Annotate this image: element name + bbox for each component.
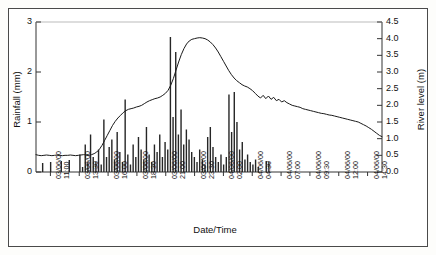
x-tick-6: 04/06/0002:00 [228, 151, 244, 179]
x-tick-time: 07:00 [294, 151, 302, 179]
x-tick-time: 13:30 [92, 151, 100, 179]
x-tick-time: 14:30 [381, 151, 389, 179]
x-tick-time: 18:30 [150, 151, 158, 179]
x-tick-time: 02:00 [236, 151, 244, 179]
x-tick-10: 04/06/0012:00 [344, 151, 360, 179]
y-axis-right-title: River level (m) [415, 50, 426, 150]
y-tick-right-7: 3.5 [386, 49, 412, 59]
x-tick-time: 11:00 [63, 151, 71, 179]
chart-canvas [0, 0, 436, 255]
y-tick-left-0: 0 [10, 166, 32, 176]
y-tick-right-5: 2.5 [386, 83, 412, 93]
y-tick-right-4: 2.0 [386, 99, 412, 109]
x-axis-title: Date/Time [130, 224, 300, 235]
y-axis-left-title: Rainfall (mm) [11, 50, 22, 150]
x-tick-8: 04/06/0007:00 [286, 151, 302, 179]
x-tick-1: 03/06/0013:30 [84, 151, 100, 179]
x-tick-3: 03/06/0018:30 [142, 151, 158, 179]
y-tick-right-8: 4.0 [386, 33, 412, 43]
y-tick-right-1: 0.5 [386, 149, 412, 159]
x-tick-time: 09:30 [323, 151, 331, 179]
y-tick-right-9: 4.5 [386, 16, 412, 26]
x-tick-5: 03/06/0023:30 [200, 151, 216, 179]
x-tick-7: 04/06/0004:30 [257, 151, 273, 179]
y-tick-left-3: 3 [10, 16, 32, 26]
y-tick-left-2: 2 [10, 66, 32, 76]
x-tick-2: 03/06/0016:00 [113, 151, 129, 179]
plot-area [0, 0, 436, 255]
x-tick-time: 23:30 [208, 151, 216, 179]
y-tick-left-1: 1 [10, 116, 32, 126]
x-tick-4: 03/06/0021:00 [171, 151, 187, 179]
x-tick-time: 16:00 [121, 151, 129, 179]
y-tick-right-3: 1.5 [386, 116, 412, 126]
y-tick-right-2: 1.0 [386, 133, 412, 143]
x-tick-0: 03/06/0011:00 [55, 151, 71, 179]
y-tick-right-0: 0.0 [386, 166, 412, 176]
river-level-line [36, 38, 382, 156]
hydrograph-figure: Rainfall (mm) River level (m) Date/Time … [0, 0, 436, 255]
x-tick-time: 04:30 [265, 151, 273, 179]
x-tick-11: 04/06/0014:30 [373, 151, 389, 179]
y-tick-right-6: 3.0 [386, 66, 412, 76]
x-tick-time: 21:00 [179, 151, 187, 179]
x-tick-9: 04/06/0009:30 [315, 151, 331, 179]
x-tick-time: 12:00 [352, 151, 360, 179]
